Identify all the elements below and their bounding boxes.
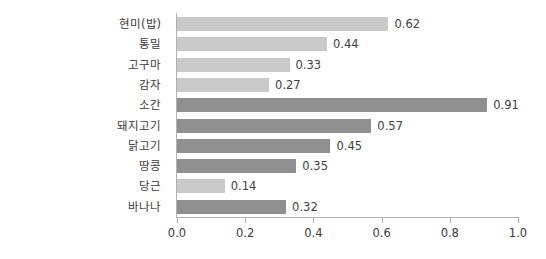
x-axis-tick-label: 0.0 (168, 226, 186, 240)
bar-value-label: 0.62 (394, 16, 420, 32)
bar (177, 179, 225, 193)
bar (177, 119, 371, 133)
bar-value-label: 0.14 (231, 178, 257, 194)
bar (177, 58, 290, 72)
bar (177, 17, 388, 31)
x-axis-tick (245, 218, 246, 223)
category-label: 당근 (0, 176, 169, 196)
bar-row: 0.45 (177, 136, 518, 156)
bar (177, 78, 269, 92)
bar-row: 0.32 (177, 197, 518, 217)
bar (177, 139, 330, 153)
x-axis-tick-label: 1.0 (509, 226, 527, 240)
category-label: 바나나 (0, 197, 169, 217)
x-axis-tick-label: 0.2 (236, 226, 254, 240)
x-axis-tick-label: 0.4 (304, 226, 322, 240)
bar-row: 0.27 (177, 75, 518, 95)
category-label: 감자 (0, 75, 169, 95)
bar-row: 0.91 (177, 95, 518, 115)
bar-value-label: 0.45 (336, 138, 362, 154)
category-label: 현미(밥) (0, 14, 169, 34)
x-axis-tick-label: 0.8 (441, 226, 459, 240)
category-label: 통밀 (0, 34, 169, 54)
x-axis-tick (313, 218, 314, 223)
bar (177, 37, 327, 51)
bar (177, 159, 296, 173)
x-axis-tick (382, 218, 383, 223)
x-axis-tick-label: 0.6 (372, 226, 390, 240)
bar-row: 0.62 (177, 14, 518, 34)
x-axis-tick (450, 218, 451, 223)
bar-row: 0.44 (177, 34, 518, 54)
bar-value-label: 0.35 (302, 158, 328, 174)
bar-value-label: 0.91 (493, 97, 519, 113)
bar-row: 0.35 (177, 156, 518, 176)
bar-value-label: 0.27 (275, 77, 301, 93)
category-label: 고구마 (0, 55, 169, 75)
category-label: 돼지고기 (0, 116, 169, 136)
bar-value-label: 0.33 (296, 57, 322, 73)
bar-row: 0.14 (177, 176, 518, 196)
bar-rows: 0.620.440.330.270.910.570.450.350.140.32 (177, 14, 518, 217)
bar-row: 0.57 (177, 116, 518, 136)
bar-chart: 현미(밥)통밀고구마감자소간돼지고기닭고기땅콩당근바나나 0.620.440.3… (0, 0, 546, 259)
category-label: 닭고기 (0, 136, 169, 156)
bar-value-label: 0.44 (333, 36, 359, 52)
bar-value-label: 0.32 (292, 199, 318, 215)
bar-row: 0.33 (177, 55, 518, 75)
bar (177, 98, 487, 112)
bar-value-label: 0.57 (377, 118, 403, 134)
plot-area: 0.620.440.330.270.910.570.450.350.140.32 (177, 14, 518, 217)
category-label: 땅콩 (0, 156, 169, 176)
x-axis-line (176, 217, 519, 218)
bar (177, 200, 286, 214)
x-axis-tick (518, 218, 519, 223)
x-axis-tick (177, 218, 178, 223)
category-axis-labels: 현미(밥)통밀고구마감자소간돼지고기닭고기땅콩당근바나나 (0, 14, 169, 217)
category-label: 소간 (0, 95, 169, 115)
